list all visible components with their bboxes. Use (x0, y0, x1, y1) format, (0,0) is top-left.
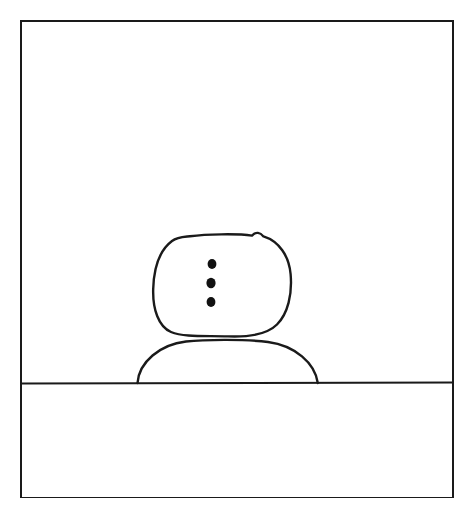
snowman-button-top (208, 259, 217, 269)
snowman-button-middle (206, 278, 215, 288)
snowman-drawing (0, 0, 476, 526)
ground-horizon-line (22, 383, 453, 384)
snowman-head-blob (153, 233, 291, 337)
drawing-canvas (0, 0, 476, 526)
ground-region (22, 383, 452, 497)
snowman-button-bottom (207, 297, 216, 307)
